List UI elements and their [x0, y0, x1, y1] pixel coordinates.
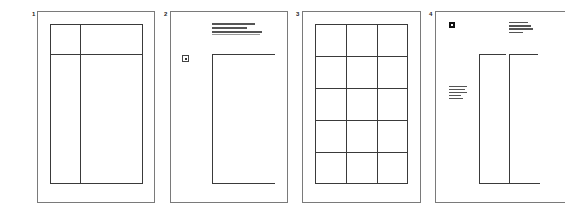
marginal-icon — [182, 55, 189, 62]
note-line — [449, 86, 467, 87]
text-line — [212, 23, 255, 25]
text-line — [212, 34, 260, 35]
note-line — [449, 89, 465, 90]
grid-frame — [50, 24, 143, 184]
note-line — [449, 98, 463, 99]
modular-grid — [315, 24, 408, 184]
column-1-left — [479, 54, 480, 184]
panel-number: 4 — [429, 11, 432, 17]
grid-row-line — [315, 152, 408, 153]
text-line — [509, 28, 533, 30]
grid-row-line — [315, 120, 408, 121]
columns-bottom — [479, 183, 540, 184]
grid-row-line — [315, 56, 408, 57]
icon-dot — [185, 58, 187, 60]
column-divider — [80, 24, 81, 184]
column-left — [212, 54, 213, 184]
column-top — [212, 54, 275, 55]
grid-column-line — [377, 24, 378, 184]
grid-row-line — [315, 88, 408, 89]
header-divider — [50, 54, 143, 55]
column-2-left — [509, 54, 510, 184]
column-bottom — [212, 183, 275, 184]
note-line — [449, 92, 467, 93]
panel-number: 3 — [296, 11, 299, 17]
text-line — [509, 32, 523, 33]
panel-number: 2 — [164, 11, 167, 17]
column-2-top — [509, 54, 538, 55]
note-line — [449, 95, 461, 96]
text-line — [212, 31, 262, 33]
text-line — [212, 27, 247, 29]
grid-column-line — [346, 24, 347, 184]
page-outline — [170, 11, 288, 203]
folio-marker-icon — [449, 22, 455, 28]
panel-number: 1 — [32, 11, 35, 17]
page-outline — [435, 11, 565, 203]
text-line — [509, 25, 531, 27]
column-1-top — [479, 54, 506, 55]
text-line — [509, 22, 528, 23]
